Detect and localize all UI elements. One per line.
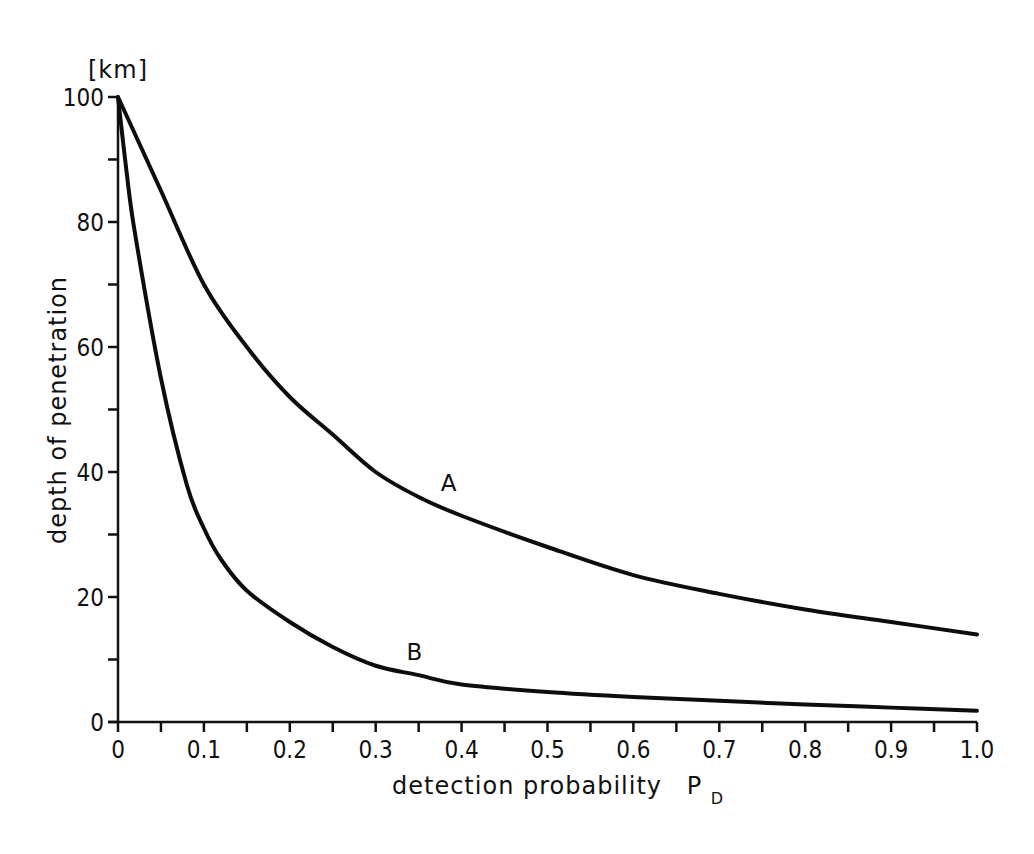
curve-b-label: B — [406, 639, 422, 665]
penetration-depth-chart: [km] depth of penetration 020406080100 0… — [0, 0, 1034, 854]
y-tick-label: 40 — [77, 459, 104, 487]
y-tick-label: 20 — [77, 584, 104, 612]
x-axis-title-subscript: D — [711, 789, 724, 808]
x-tick-label: 0.9 — [874, 736, 908, 764]
x-tick-label: 0.4 — [444, 736, 478, 764]
x-ticks: 00.10.20.30.40.50.60.70.80.91.0 — [111, 722, 994, 764]
curve-a-label: A — [441, 470, 457, 496]
y-tick-label: 60 — [77, 334, 104, 362]
y-axis-unit: [km] — [88, 56, 148, 84]
x-axis-title: detection probability P D — [392, 772, 724, 808]
y-tick-label: 0 — [90, 709, 104, 737]
x-tick-label: 0.7 — [702, 736, 736, 764]
x-tick-label: 0.3 — [359, 736, 393, 764]
x-tick-label: 0.6 — [616, 736, 650, 764]
curve-a — [118, 97, 977, 635]
x-tick-label: 0.1 — [187, 736, 221, 764]
x-tick-label: 0.5 — [530, 736, 564, 764]
curves: AB — [118, 97, 977, 711]
x-tick-label: 0.2 — [273, 736, 307, 764]
y-axis-title: depth of penetration — [44, 276, 72, 544]
y-axis: [km] depth of penetration 020406080100 — [44, 56, 148, 737]
x-tick-label: 1.0 — [960, 736, 994, 764]
x-axis: 00.10.20.30.40.50.60.70.80.91.0 detectio… — [108, 722, 994, 808]
x-tick-label: 0.8 — [788, 736, 822, 764]
x-tick-label: 0 — [111, 736, 125, 764]
curve-b — [118, 97, 977, 711]
x-axis-title-main: detection probability — [392, 772, 662, 800]
y-tick-label: 80 — [77, 209, 104, 237]
x-axis-title-symbol: P — [687, 772, 702, 800]
y-tick-label: 100 — [63, 84, 104, 112]
